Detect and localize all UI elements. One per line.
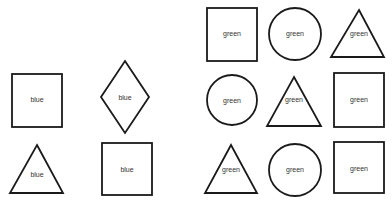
shape-label: green (350, 96, 368, 104)
shape-label: green (286, 30, 304, 38)
green-group: green green green green green green gree… (205, 8, 384, 196)
shape-label: blue (30, 96, 43, 103)
shape-label: blue (118, 94, 131, 101)
shape-label: green (350, 30, 368, 38)
shape-label: green (285, 96, 303, 104)
green-triangle-r1c3: green (331, 10, 384, 57)
green-triangle-r2c2: green (267, 77, 321, 126)
shape-label: blue (30, 171, 43, 178)
blue-group: blue blue blue blue (10, 61, 152, 195)
blue-diamond: blue (101, 61, 149, 133)
shape-label: green (223, 97, 241, 105)
triangle-shape (10, 145, 63, 193)
green-circle-r2c1: green (207, 75, 257, 125)
green-square-r3c3: green (334, 142, 384, 193)
shape-label: green (350, 165, 368, 173)
blue-square-1: blue (12, 74, 62, 127)
green-square-r1c1: green (207, 8, 257, 61)
green-square-r2c3: green (334, 73, 384, 127)
shape-label: blue (120, 166, 133, 173)
shape-label: green (223, 30, 241, 38)
blue-square-2: blue (102, 143, 152, 195)
green-triangle-r3c1: green (205, 145, 257, 193)
shapes-diagram: blue blue blue blue green green green (0, 0, 392, 207)
green-circle-r1c2: green (269, 8, 321, 60)
blue-triangle: blue (10, 145, 63, 193)
shape-label: green (222, 166, 240, 174)
green-circle-r3c2: green (269, 144, 321, 196)
shape-label: green (286, 166, 304, 174)
